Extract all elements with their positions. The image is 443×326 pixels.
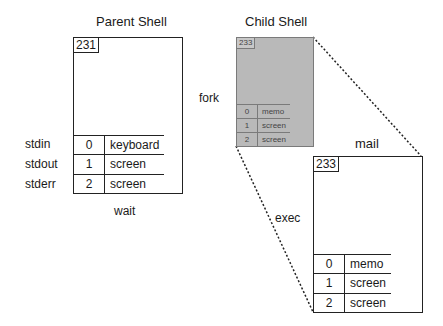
fd-target: keyboard <box>105 135 165 155</box>
fd-number: 1 <box>237 119 258 133</box>
table-row: 2 screen <box>237 133 290 147</box>
fd-target: screen <box>105 174 165 193</box>
mail-process-box: 233 0 memo 1 screen 2 screen <box>313 156 423 313</box>
fd-number: 1 <box>74 155 105 175</box>
fd-number: 2 <box>74 174 105 193</box>
table-row: 2 screen <box>74 174 164 193</box>
table-row: 1 screen <box>314 274 391 294</box>
parent-fd-table: 0 keyboard 1 screen 2 screen <box>74 135 164 194</box>
fd-target: memo <box>258 105 291 119</box>
table-row: 1 screen <box>74 155 164 175</box>
fd-number: 0 <box>237 105 258 119</box>
fd-target: screen <box>345 293 392 312</box>
table-row: 0 memo <box>314 254 391 274</box>
fd-target: screen <box>258 119 291 133</box>
fd-number: 2 <box>314 293 345 312</box>
table-row: 0 keyboard <box>74 135 164 155</box>
fd-target: screen <box>345 274 392 294</box>
fd-number: 0 <box>74 135 105 155</box>
fd-target: screen <box>258 133 291 147</box>
parent-pid: 231 <box>74 38 99 53</box>
table-row: 2 screen <box>314 293 391 312</box>
table-row: 0 memo <box>237 105 290 119</box>
fd-target: screen <box>105 155 165 175</box>
fd-number: 0 <box>314 254 345 274</box>
table-row: 1 screen <box>237 119 290 133</box>
mail-fd-table: 0 memo 1 screen 2 screen <box>314 254 391 313</box>
fd-target: memo <box>345 254 392 274</box>
parent-process-box: 231 0 keyboard 1 screen 2 screen <box>73 37 183 194</box>
fd-number: 1 <box>314 274 345 294</box>
fd-number: 2 <box>237 133 258 147</box>
child-pid: 233 <box>237 38 255 49</box>
child-fd-table: 0 memo 1 screen 2 screen <box>237 104 290 146</box>
child-process-box: 233 0 memo 1 screen 2 screen <box>236 37 314 147</box>
mail-pid: 233 <box>314 157 339 172</box>
